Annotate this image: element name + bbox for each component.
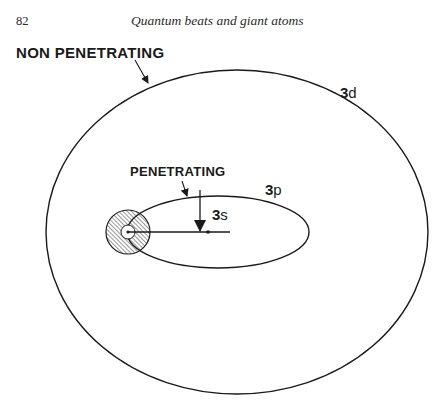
label-penetrating: PENETRATING <box>130 164 226 179</box>
non-penetrating-arrow <box>135 60 148 83</box>
label-non-penetrating: NON PENETRATING <box>16 44 164 61</box>
label-orbit-3d: 3d <box>340 84 357 101</box>
label-orbit-3p: 3p <box>265 181 282 198</box>
orbit-3s-point <box>206 230 210 234</box>
orbit-3d-ellipse <box>46 70 428 394</box>
penetrating-arrow-3p <box>182 181 187 196</box>
label-orbit-3s: 3s <box>212 206 228 223</box>
atom-orbit-diagram: NON PENETRATING PENETRATING 3d 3p 3s <box>0 0 445 409</box>
